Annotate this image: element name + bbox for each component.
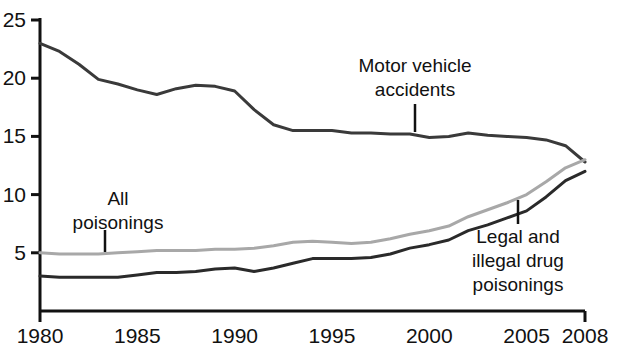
x-axis-tick-label: 2005 (503, 324, 550, 347)
line-chart: 510152025 1980198519901995200020052008 M… (0, 0, 623, 355)
annotation-label-line: All (107, 188, 128, 209)
annotation-label-line: accidents (375, 79, 455, 100)
annotation-label: Motor vehicleaccidents (359, 55, 472, 100)
y-axis-tick-label: 20 (3, 66, 26, 89)
y-axis-tick-label: 25 (3, 8, 26, 31)
y-axis-tick-label: 5 (14, 241, 26, 264)
annotation-motor-vehicle-accidents: Motor vehicleaccidents (359, 55, 472, 132)
chart-container: 510152025 1980198519901995200020052008 M… (0, 0, 623, 355)
annotation-label-line: poisonings (473, 274, 564, 295)
x-axis-tick-label: 1990 (211, 324, 258, 347)
annotation-all-poisonings: Allpoisonings (73, 188, 164, 252)
annotation-label-line: poisonings (73, 212, 164, 233)
annotation-legal-and-illegal-drug-poisonings: Legal andillegal drugpoisonings (472, 200, 564, 295)
x-axis-tick-label: 2000 (406, 324, 453, 347)
y-axis-tick-label: 10 (3, 183, 26, 206)
annotation-label: Legal andillegal drugpoisonings (472, 226, 564, 295)
y-axis-tick-label: 15 (3, 124, 26, 147)
annotation-label: Allpoisonings (73, 188, 164, 233)
annotation-label-line: Legal and (476, 226, 559, 247)
x-axis-tick-label: 1980 (17, 324, 64, 347)
x-axis-tick-label: 2008 (562, 324, 609, 347)
series-line (40, 43, 585, 162)
annotation-label-line: illegal drug (472, 250, 564, 271)
x-axis: 1980198519901995200020052008 (17, 311, 609, 347)
x-axis-tick-label: 1985 (114, 324, 161, 347)
y-axis: 510152025 (3, 8, 40, 311)
annotation-label-line: Motor vehicle (359, 55, 472, 76)
x-axis-tick-label: 1995 (309, 324, 356, 347)
